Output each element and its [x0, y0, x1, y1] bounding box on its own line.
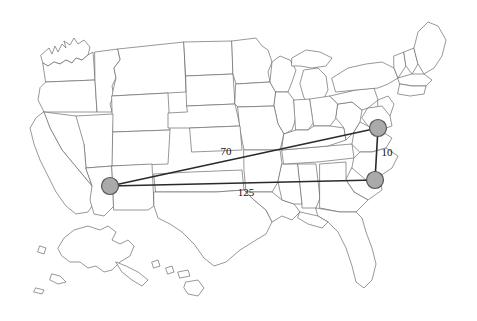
node-southeast[interactable]: [367, 172, 384, 189]
node-northeast[interactable]: [370, 120, 387, 137]
state-north-dakota: [184, 41, 233, 76]
alaska-panhandle: [116, 262, 148, 286]
network-map-figure: 70 125 10: [0, 0, 477, 321]
state-south-dakota: [186, 74, 235, 106]
inset-hawaii: [152, 260, 204, 296]
hawaii-bigisland: [184, 280, 204, 296]
state-maine: [414, 22, 446, 74]
state-colorado: [112, 130, 170, 166]
hawaii-maui: [178, 270, 190, 278]
state-connecticut: [398, 84, 426, 96]
state-minnesota: [232, 38, 272, 84]
state-ohio: [310, 96, 338, 126]
state-iowa: [235, 82, 276, 107]
state-oregon: [38, 80, 97, 112]
inset-alaska: [34, 226, 148, 294]
alaska-aleutians-2: [34, 288, 44, 294]
state-kansas: [190, 126, 242, 152]
alaska-island-west: [38, 246, 46, 254]
state-texas: [154, 190, 272, 266]
edge-label-70: 70: [221, 145, 233, 157]
state-nebraska: [168, 104, 240, 128]
state-new-york: [332, 62, 398, 92]
edge-label-10: 10: [382, 146, 394, 158]
edge-label-125: 125: [238, 186, 255, 198]
alaska-aleutians-1: [50, 274, 66, 284]
state-wyoming: [112, 93, 170, 132]
hawaii-oahu: [166, 266, 174, 274]
state-montana: [112, 42, 186, 96]
hawaii-kauai: [152, 260, 160, 268]
us-map-svg: 70 125 10: [0, 0, 477, 321]
state-michigan-upper: [292, 50, 332, 68]
node-west[interactable]: [102, 178, 119, 195]
